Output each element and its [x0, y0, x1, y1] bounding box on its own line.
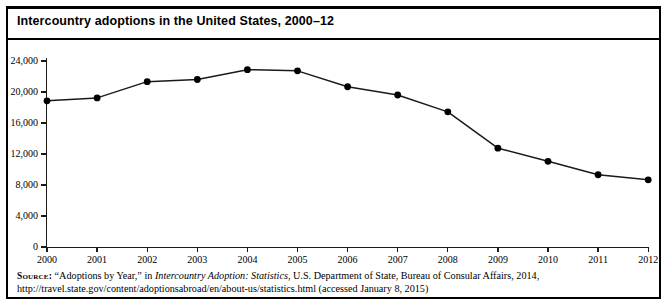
figure-container: Intercountry adoptions in the United Sta…	[0, 0, 667, 305]
data-point-marker	[244, 66, 251, 73]
data-point-marker	[344, 83, 351, 90]
source-note: Source: “Adoptions by Year,” in Intercou…	[17, 270, 652, 296]
source-label: Source:	[17, 271, 52, 281]
data-point-marker	[44, 97, 51, 104]
data-point-marker	[645, 176, 652, 183]
data-point-marker	[444, 108, 451, 115]
source-text-before: “Adoptions by Year,” in	[52, 270, 155, 281]
source-publication-title: Intercountry Adoption: Statistics	[155, 270, 288, 281]
data-point-marker	[94, 95, 101, 102]
data-point-marker	[294, 67, 301, 74]
data-point-marker	[394, 92, 401, 99]
data-point-marker	[144, 78, 151, 85]
data-point-marker	[595, 171, 602, 178]
data-point-marker	[545, 158, 552, 165]
chart-plot-area: 04,0008,00012,00016,00020,00024,000 2000…	[0, 0, 667, 305]
line-series	[0, 0, 667, 305]
data-point-marker	[495, 145, 502, 152]
data-point-marker	[194, 76, 201, 83]
